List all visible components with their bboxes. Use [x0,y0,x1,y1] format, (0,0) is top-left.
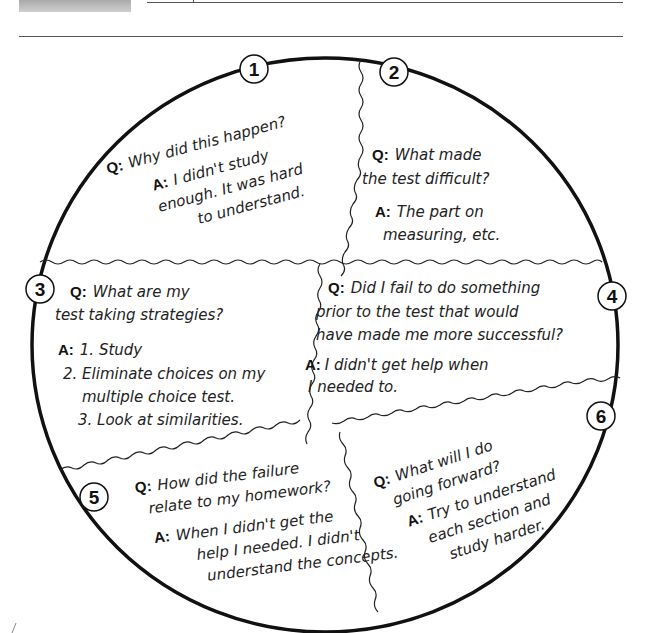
section-1: Q:Why did this happen? A:I didn't study … [104,111,311,247]
badge-2: 2 [380,58,408,86]
svg-text:2. Eliminate choices on my: 2. Eliminate choices on my [63,365,266,383]
svg-text:prior to the test that would: prior to the test that would [315,303,519,321]
svg-text:multiple choice test.: multiple choice test. [82,388,235,406]
svg-text:3: 3 [35,279,46,300]
svg-text:3. Look at similarities.: 3. Look at similarities. [78,411,243,429]
svg-text:4: 4 [607,286,618,307]
section-3: Q:What are my test taking strategies? A:… [55,283,266,429]
svg-text:Q:Did I fail to do something: Q:Did I fail to do something [328,279,540,297]
badge-4: 4 [598,282,626,310]
badge-6: 6 [587,402,615,430]
badge-3: 3 [26,275,54,303]
svg-text:the test difficult?: the test difficult? [362,170,489,188]
section-4: Q:Did I fail to do something prior to th… [305,279,563,396]
corner-mark [12,623,16,633]
svg-text:2: 2 [389,62,400,83]
svg-text:A:I didn't get help when: A:I didn't get help when [305,356,489,374]
divider-3-4 [306,264,322,444]
divider-5-6 [339,432,378,612]
svg-text:I needed to.: I needed to. [308,378,398,396]
svg-text:have made me more successful?: have made me more successful? [316,326,563,344]
badge-1: 1 [240,55,268,83]
svg-text:A:The part on: A:The part on [375,203,484,221]
svg-text:1: 1 [249,59,260,80]
svg-text:Q:What made: Q:What made [372,146,481,164]
divider-upper-horizontal [40,260,602,264]
section-6: Q:What will I do going forward? A:Try to… [371,421,572,579]
divider-1-2 [341,60,363,276]
svg-text:5: 5 [89,487,100,508]
section-5: Q:How did the failure relate to my homew… [134,448,399,592]
reflection-circle-diagram: 1 2 3 4 5 6 Q:Why did this happen? A:I d… [0,0,648,633]
svg-text:6: 6 [596,406,607,427]
svg-text:A:1. Study: A:1. Study [58,341,143,359]
svg-text:measuring, etc.: measuring, etc. [383,226,500,244]
svg-text:test taking strategies?: test taking strategies? [55,306,223,324]
badge-5: 5 [80,483,108,511]
svg-text:Q:What are my: Q:What are my [70,283,191,301]
section-2: Q:What made the test difficult? A:The pa… [362,146,500,244]
